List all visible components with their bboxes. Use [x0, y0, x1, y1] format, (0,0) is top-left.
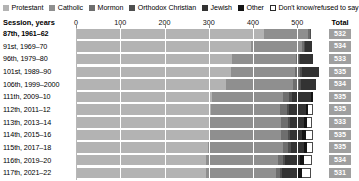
bar-segment[interactable] — [290, 117, 304, 127]
bar-segment[interactable] — [76, 168, 206, 178]
stacked-bar[interactable] — [76, 54, 313, 64]
stacked-bar[interactable] — [76, 29, 311, 39]
total-value: 534 — [329, 155, 351, 165]
bar-segment[interactable] — [308, 104, 312, 114]
bar-segment[interactable] — [226, 79, 293, 89]
legend-label: Catholic — [58, 4, 83, 12]
stacked-bar[interactable] — [76, 41, 312, 51]
legend-item[interactable]: Catholic — [49, 4, 83, 12]
bar-segment[interactable] — [76, 92, 212, 102]
stacked-bar[interactable] — [76, 117, 312, 127]
bar-segment[interactable] — [302, 67, 319, 77]
y-axis-line — [76, 28, 77, 180]
bar-segment[interactable] — [285, 155, 300, 165]
bar-segment[interactable] — [76, 79, 226, 89]
row-label: 106th, 1999–2000 — [3, 80, 59, 89]
stacked-bar[interactable] — [76, 155, 312, 165]
table-row[interactable]: 117th, 2021–22531 — [0, 167, 353, 179]
bar-segment[interactable] — [291, 142, 304, 152]
bar-segment[interactable] — [311, 92, 312, 102]
table-row[interactable]: 115th, 2017–18535 — [0, 142, 353, 154]
bar-segment[interactable] — [208, 142, 282, 152]
table-row[interactable]: 106th, 1999–2000534 — [0, 79, 353, 91]
table-row[interactable]: 114th, 2015–16535 — [0, 129, 353, 141]
stacked-bar[interactable] — [76, 92, 313, 102]
bar-rows: 87th, 1961–6253291st, 1969–7053496th, 19… — [0, 28, 353, 180]
stacked-bar[interactable] — [76, 79, 316, 89]
table-row[interactable]: 116th, 2019–20534 — [0, 155, 353, 167]
bar-segment[interactable] — [206, 168, 276, 178]
bar-segment[interactable] — [212, 92, 283, 102]
bar-segment[interactable] — [306, 130, 313, 140]
bar-segment[interactable] — [209, 117, 281, 127]
bar-segment[interactable] — [301, 79, 316, 89]
total-value: 531 — [329, 168, 351, 178]
bar-segment[interactable] — [307, 142, 312, 152]
bar-segment[interactable] — [290, 130, 302, 140]
bar-segment[interactable] — [76, 142, 208, 152]
table-row[interactable]: 111th, 2009–10535 — [0, 91, 353, 103]
legend-label: Don't know/refused to say — [278, 4, 358, 12]
bar-segment[interactable] — [283, 92, 290, 102]
stacked-bar[interactable] — [76, 142, 313, 152]
row-label: 111th, 2009–10 — [3, 92, 51, 101]
legend-swatch-icon — [129, 5, 135, 11]
bar-segment[interactable] — [292, 92, 312, 102]
bar-segment[interactable] — [231, 67, 295, 77]
bar-segment[interactable] — [251, 41, 301, 51]
total-value: 534 — [329, 41, 351, 51]
row-label: 101st, 1989–90 — [3, 67, 51, 76]
table-row[interactable]: 101st, 1989–90535 — [0, 66, 353, 78]
row-label: 115th, 2017–18 — [3, 143, 51, 152]
row-label: 117th, 2021–22 — [3, 168, 51, 177]
total-value: 534 — [329, 79, 351, 89]
bar-segment[interactable] — [307, 117, 312, 127]
total-value: 535 — [329, 104, 351, 114]
bar-segment[interactable] — [76, 67, 231, 77]
bar-segment[interactable] — [76, 117, 209, 127]
stacked-bar[interactable] — [76, 104, 313, 114]
stacked-bar[interactable] — [76, 168, 311, 178]
bar-segment[interactable] — [304, 155, 312, 165]
bar-segment[interactable] — [209, 130, 282, 140]
legend-item[interactable]: Protestant — [3, 4, 43, 12]
legend-swatch-icon — [3, 5, 9, 11]
bar-segment[interactable] — [281, 117, 288, 127]
bar-segment[interactable] — [76, 54, 232, 64]
legend-swatch-icon — [89, 5, 95, 11]
bar-segment[interactable] — [211, 104, 280, 114]
stacked-bar[interactable] — [76, 67, 319, 77]
legend-item[interactable]: Jewish — [202, 4, 232, 12]
row-label: 96th, 1979–80 — [3, 54, 48, 63]
legend-item[interactable]: Other — [238, 4, 264, 12]
table-row[interactable]: 96th, 1979–80533 — [0, 53, 353, 65]
bar-segment[interactable] — [76, 41, 251, 51]
bar-segment[interactable] — [311, 29, 312, 39]
legend-item[interactable]: Don't know/refused to say — [270, 4, 359, 12]
total-value: 533 — [329, 117, 351, 127]
bar-segment[interactable] — [76, 155, 206, 165]
table-row[interactable]: 113th, 2013–14533 — [0, 117, 353, 129]
bar-segment[interactable] — [282, 168, 297, 178]
table-row[interactable]: 87th, 1961–62532 — [0, 28, 353, 40]
table-row[interactable]: 112th, 2011–12535 — [0, 104, 353, 116]
bar-segment[interactable] — [76, 29, 264, 39]
total-value: 532 — [329, 29, 351, 39]
bar-segment[interactable] — [302, 168, 311, 178]
bar-segment[interactable] — [76, 130, 209, 140]
bar-segment[interactable] — [305, 41, 312, 51]
table-row[interactable]: 91st, 1969–70534 — [0, 41, 353, 53]
legend-item[interactable]: Orthodox Christian — [129, 4, 196, 12]
bar-segment[interactable] — [206, 155, 278, 165]
stacked-bar[interactable] — [76, 130, 313, 140]
bar-segment[interactable] — [280, 104, 287, 114]
legend-item[interactable]: Mormon — [89, 4, 123, 12]
bar-segment[interactable] — [300, 54, 312, 64]
bar-segment[interactable] — [289, 104, 306, 114]
legend-swatch-icon — [49, 5, 55, 11]
bar-segment[interactable] — [232, 54, 296, 64]
chart-legend: ProtestantCatholicMormonOrthodox Christi… — [3, 1, 351, 14]
bar-segment[interactable] — [264, 29, 308, 39]
bar-segment[interactable] — [76, 104, 211, 114]
